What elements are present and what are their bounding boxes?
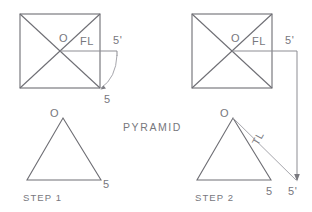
step1-rotation-arc (101, 55, 117, 88)
step2-triangle (197, 118, 271, 180)
step1-fold-line-label: FL (80, 35, 94, 47)
step2-fold-line-label: FL (252, 35, 266, 47)
step1-front-view-labels: O 5 (50, 107, 110, 190)
step1-apex-label: O (50, 107, 59, 119)
step2-rotated-point-label: 5' (285, 34, 294, 46)
step2-base-right-label: 5 (266, 185, 273, 197)
step1-center-label: O (59, 32, 68, 44)
step2-true-length-line (233, 118, 296, 180)
step1-rotated-point-label: 5' (113, 34, 122, 46)
step1-base-right-label: 5 (103, 178, 110, 190)
step2-apex-label: O (220, 107, 229, 119)
step2-caption: STEP 2 (195, 192, 234, 203)
step2-true-length-label: TL (249, 129, 266, 147)
step1-revolved-point-label: 5 (104, 93, 111, 105)
step2-front-view (197, 118, 296, 180)
step2-projector-arrowhead (294, 174, 300, 182)
step2-top-view (192, 14, 300, 182)
pyramid-construction-drawing: O FL 5' 5 O 5 STEP 1 PYRAMID O FL 5' O T… (0, 0, 312, 212)
step1-top-view (20, 14, 117, 90)
step2-projected-point-label: 5' (288, 185, 297, 197)
step2-center-label: O (231, 32, 240, 44)
figure-title: PYRAMID (123, 121, 182, 133)
step1-front-view (27, 118, 101, 180)
step1-triangle (27, 118, 101, 180)
step2-top-view-labels: O FL 5' (231, 32, 294, 47)
step1-caption: STEP 1 (23, 192, 62, 203)
